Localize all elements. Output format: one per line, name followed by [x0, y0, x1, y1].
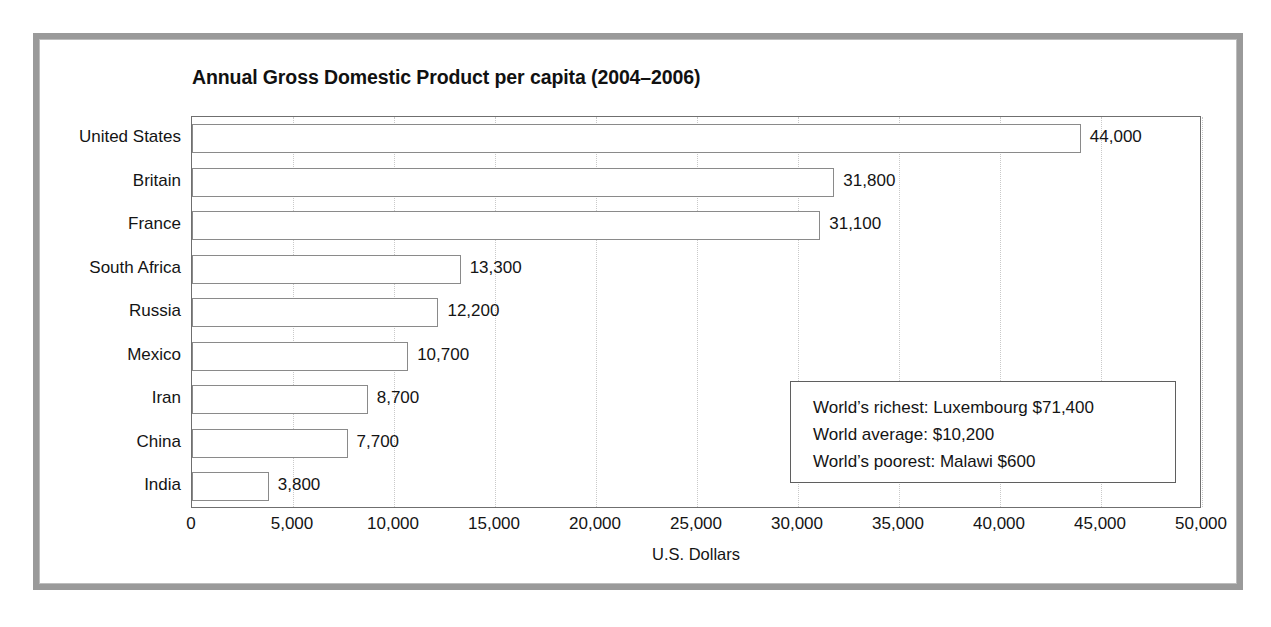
x-tick-label: 20,000 — [569, 514, 621, 534]
x-axis-ticks: 05,00010,00015,00020,00025,00030,00035,0… — [191, 514, 1201, 540]
bar — [192, 124, 1081, 153]
x-tick-label: 15,000 — [468, 514, 520, 534]
bar — [192, 211, 820, 240]
chart-page: Annual Gross Domestic Product per capita… — [0, 0, 1271, 627]
annotation-line: World’s poorest: Malawi $600 — [813, 448, 1175, 475]
bar-row: 31,100 — [192, 204, 1200, 248]
bar — [192, 472, 269, 501]
category-label: Russia — [0, 301, 181, 321]
annotation-box: World’s richest: Luxembourg $71,400World… — [790, 381, 1176, 483]
x-tick-label: 5,000 — [271, 514, 314, 534]
bar-row: 13,300 — [192, 248, 1200, 292]
gridline — [1202, 117, 1203, 507]
x-tick-label: 25,000 — [670, 514, 722, 534]
bar-value-label: 31,100 — [829, 214, 881, 234]
bar — [192, 255, 461, 284]
bar — [192, 429, 348, 458]
bar-row: 31,800 — [192, 161, 1200, 205]
x-tick-label: 35,000 — [872, 514, 924, 534]
x-tick-label: 40,000 — [973, 514, 1025, 534]
bar-row: 10,700 — [192, 335, 1200, 379]
category-label: France — [0, 214, 181, 234]
category-label: South Africa — [0, 258, 181, 278]
category-label: United States — [0, 127, 181, 147]
x-tick-label: 10,000 — [367, 514, 419, 534]
bar-row: 44,000 — [192, 117, 1200, 161]
annotation-line: World’s richest: Luxembourg $71,400 — [813, 394, 1175, 421]
x-tick-label: 0 — [186, 514, 195, 534]
annotation-line: World average: $10,200 — [813, 421, 1175, 448]
bar-row: 12,200 — [192, 291, 1200, 335]
x-tick-label: 45,000 — [1074, 514, 1126, 534]
bar-value-label: 31,800 — [843, 171, 895, 191]
bar-value-label: 44,000 — [1090, 127, 1142, 147]
bar-value-label: 13,300 — [470, 258, 522, 278]
bar-value-label: 12,200 — [447, 301, 499, 321]
bar — [192, 342, 408, 371]
bar-value-label: 8,700 — [377, 388, 420, 408]
bar-value-label: 3,800 — [278, 475, 321, 495]
bar — [192, 168, 834, 197]
category-label: China — [0, 432, 181, 452]
chart-title: Annual Gross Domestic Product per capita… — [192, 66, 701, 89]
category-label: India — [0, 475, 181, 495]
category-label: Iran — [0, 388, 181, 408]
category-label: Mexico — [0, 345, 181, 365]
bar-value-label: 10,700 — [417, 345, 469, 365]
x-tick-label: 30,000 — [771, 514, 823, 534]
bar-value-label: 7,700 — [357, 432, 400, 452]
x-axis-label: U.S. Dollars — [191, 545, 1201, 564]
category-label: Britain — [0, 171, 181, 191]
bar — [192, 298, 438, 327]
bar — [192, 385, 368, 414]
x-tick-label: 50,000 — [1175, 514, 1227, 534]
